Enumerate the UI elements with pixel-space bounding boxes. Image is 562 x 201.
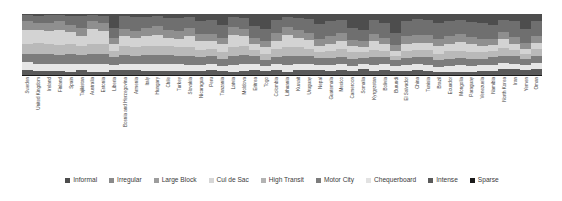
bar-segment [228, 17, 239, 27]
bar-segment [184, 75, 195, 76]
bar-column [455, 14, 466, 76]
legend-item[interactable]: Intense [428, 176, 458, 184]
bar-column [228, 14, 239, 76]
legend-swatch-icon [470, 178, 475, 183]
bar-segment [130, 31, 141, 38]
bar-segment [260, 14, 271, 29]
bar-segment [65, 25, 76, 32]
bar-segment [87, 75, 98, 76]
x-axis-tick-label: Nicaragua [198, 77, 203, 98]
bar-segment [195, 57, 206, 64]
bar-segment [412, 35, 423, 42]
bar-segment [44, 64, 55, 71]
legend-item[interactable]: High Transit [261, 176, 304, 184]
bar-segment [271, 20, 282, 34]
bar-segment [22, 44, 33, 54]
legend-item[interactable]: Informal [65, 176, 97, 184]
bar-segment [271, 75, 282, 76]
bar-column [174, 14, 185, 76]
bar-segment [141, 55, 152, 64]
legend-swatch-icon [428, 178, 433, 183]
x-axis-tick-label: El Salvador [404, 77, 409, 101]
x-axis-tick: Peru [206, 77, 217, 147]
bar-segment [379, 14, 390, 23]
x-axis-tick: Uruguay [304, 77, 315, 147]
bar-column [109, 14, 120, 76]
legend-label: Motor City [324, 176, 354, 184]
bar-segment [44, 15, 55, 22]
bar-segment [130, 75, 141, 76]
x-axis-tick: Nicaragua [195, 77, 206, 147]
x-axis-tick-label: Spain [68, 77, 73, 89]
bar-column [477, 14, 488, 76]
x-axis-tick: United Kingdom [33, 77, 44, 147]
bar-segment [184, 28, 195, 36]
bar-segment [76, 46, 87, 55]
x-axis-tick: Cameroon [347, 77, 358, 147]
bar-segment [119, 36, 130, 46]
bar-segment [509, 69, 520, 76]
bar-segment [152, 26, 163, 35]
bar-segment [520, 75, 531, 76]
x-axis-tick-label: Paraguay [469, 77, 474, 97]
bar-segment [509, 21, 520, 37]
bar-segment [336, 33, 347, 40]
bar-segment [466, 44, 477, 51]
bar-segment [433, 14, 444, 23]
legend-item[interactable]: Sparse [470, 176, 499, 184]
bar-segment [347, 28, 358, 40]
bar-segment [239, 75, 250, 76]
legend-item[interactable]: Chequerboard [366, 176, 416, 184]
x-axis-tick-label: Armenia [133, 77, 138, 94]
bar-segment [271, 49, 282, 56]
x-axis-tick: Eritrea [249, 77, 260, 147]
x-axis-tick-label: Eritrea [252, 77, 257, 91]
bar-segment [130, 17, 141, 31]
bar-segment [109, 75, 120, 76]
bar-segment [217, 59, 228, 66]
bar-segment [271, 33, 282, 40]
bar-segment [22, 30, 33, 44]
x-axis-tick: Paraguay [466, 77, 477, 147]
x-axis-tick: Venezuela [477, 77, 488, 147]
bar-column [65, 14, 76, 76]
x-axis-tick: North Korea [498, 77, 509, 147]
legend-item[interactable]: Large Block [154, 176, 197, 184]
bar-segment [477, 14, 488, 23]
bar-segment [141, 64, 152, 71]
legend-item[interactable]: Cul de Sac [209, 176, 249, 184]
bar-segment [325, 21, 336, 36]
bar-segment [401, 36, 412, 43]
x-axis-tick-label: Iran [512, 77, 517, 85]
x-axis-tick: Brazil [433, 77, 444, 147]
bar-segment [412, 50, 423, 57]
bar-segment [477, 75, 488, 76]
bar-segment [44, 31, 55, 45]
legend-item[interactable]: Motor City [316, 176, 354, 184]
bar-segment [119, 46, 130, 55]
x-axis-tick: Mexico [336, 77, 347, 147]
bar-column [206, 14, 217, 76]
bar-segment [87, 54, 98, 64]
bar-segment [347, 75, 358, 76]
bar-column [76, 14, 87, 76]
legend-item[interactable]: Irregular [109, 176, 142, 184]
bar-column [152, 14, 163, 76]
bar-segment [336, 20, 347, 34]
bar-segment [520, 29, 531, 43]
bar-segment [282, 56, 293, 65]
bar-segment [358, 14, 369, 30]
x-axis-tick: Slovakia [184, 77, 195, 147]
bar-column [369, 14, 380, 76]
bar-column [239, 14, 250, 76]
bar-segment [44, 54, 55, 63]
bar-segment [217, 75, 228, 76]
bar-segment [65, 32, 76, 44]
bar-column [44, 14, 55, 76]
bar-column [379, 14, 390, 76]
bar-segment [498, 32, 509, 39]
bar-column [520, 14, 531, 76]
bar-segment [325, 36, 336, 43]
bar-segment [304, 75, 315, 76]
chart-root: SwedenUnited KingdomIrelandFinlandSpainT… [0, 0, 562, 201]
